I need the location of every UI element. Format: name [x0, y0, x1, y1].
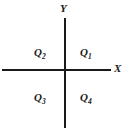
quadrant-label-2: Q2: [34, 46, 46, 61]
quadrant-4-symbol: Q: [80, 91, 88, 103]
y-axis-line: [64, 18, 66, 128]
quadrant-label-4: Q4: [80, 91, 92, 106]
quadrant-3-symbol: Q: [34, 91, 42, 103]
y-axis-label: Y: [60, 3, 67, 14]
x-axis-line: [2, 69, 111, 71]
cartesian-quadrant-diagram: Y X Q1 Q2 Q3 Q4: [0, 0, 130, 135]
quadrant-2-subscript: 2: [42, 52, 46, 61]
quadrant-2-symbol: Q: [34, 46, 42, 58]
quadrant-label-3: Q3: [34, 91, 46, 106]
quadrant-3-subscript: 3: [42, 97, 46, 106]
quadrant-1-symbol: Q: [80, 46, 88, 58]
quadrant-4-subscript: 4: [88, 97, 92, 106]
quadrant-label-1: Q1: [80, 46, 92, 61]
x-axis-label: X: [114, 63, 121, 74]
quadrant-1-subscript: 1: [88, 52, 92, 61]
